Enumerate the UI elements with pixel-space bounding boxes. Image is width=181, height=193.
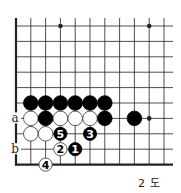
svg-text:5: 5: [57, 128, 65, 141]
star-point: [147, 116, 152, 121]
black-stone: [68, 96, 83, 111]
white-stone: [53, 111, 68, 126]
black-stone: [127, 111, 142, 126]
black-stone: [98, 111, 113, 126]
go-board-diagram: ab 53214: [0, 0, 181, 193]
black-stone: [38, 96, 53, 111]
black-stone: [53, 96, 68, 111]
white-stone-2: 2: [54, 143, 67, 157]
black-stone: [38, 111, 53, 126]
black-stone: [83, 96, 98, 111]
svg-text:4: 4: [42, 159, 50, 172]
svg-text:1: 1: [71, 143, 79, 156]
black-stone: [24, 96, 39, 111]
white-stone: [24, 127, 39, 142]
marker-label-b: b: [11, 142, 19, 156]
white-stone-4: 4: [39, 158, 52, 172]
svg-text:3: 3: [86, 128, 94, 141]
star-point: [58, 24, 63, 29]
grid-lines: [15, 18, 173, 166]
marker-label-a: a: [11, 111, 18, 125]
black-stone-1: 1: [69, 143, 82, 157]
black-stone: [98, 96, 113, 111]
svg-text:2: 2: [57, 143, 65, 156]
diagram-caption: 2 도: [138, 174, 162, 190]
black-stone-5: 5: [54, 127, 67, 141]
black-stone-3: 3: [83, 127, 96, 141]
white-stone: [38, 127, 53, 142]
star-point: [147, 24, 152, 29]
white-stone: [24, 111, 39, 126]
white-stone: [83, 111, 98, 126]
white-stone: [68, 111, 83, 126]
